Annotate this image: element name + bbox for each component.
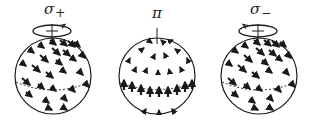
panel-pi: π (104, 0, 208, 122)
sphere-sigma-plus (0, 0, 104, 122)
field-arrows (124, 40, 192, 113)
field-arrows (228, 40, 295, 110)
sphere-sigma-minus (206, 0, 310, 122)
sphere-pi (104, 0, 208, 122)
field-arrows (22, 40, 89, 110)
panel-sigma-plus: σ+ (0, 0, 104, 122)
panel-sigma-minus: σ− (206, 0, 310, 122)
